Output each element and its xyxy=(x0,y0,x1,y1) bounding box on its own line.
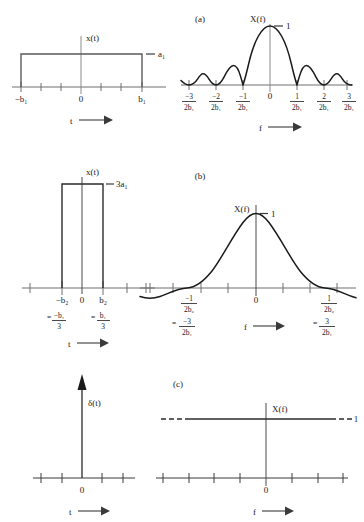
svg-text:3: 3 xyxy=(325,317,329,326)
row-c-time-plot: δ(t) 0 t xyxy=(33,374,135,517)
svg-text:2b₁: 2b₁ xyxy=(211,103,222,112)
row-b-tag: (b) xyxy=(195,171,206,181)
time-axis-label-c: t xyxy=(69,507,72,517)
svg-text:3: 3 xyxy=(347,92,351,101)
sinc-curve-b xyxy=(140,214,356,299)
amplitude-label-b: 3a₁ xyxy=(116,179,128,189)
svg-text:−3: −3 xyxy=(183,317,191,326)
svg-text:3: 3 xyxy=(101,322,105,331)
time-axis-label-b: t xyxy=(68,339,71,349)
row-a-time-plot: x(t) a₁ −b₁ 0 b₁ t xyxy=(12,33,166,126)
svg-text:=: = xyxy=(172,319,176,328)
time-tick-label-a-pos: b₁ xyxy=(138,94,146,104)
time-tick-label-b-pos: b₂ xyxy=(99,295,107,305)
time-axis-arrow-c xyxy=(78,507,110,516)
row-a-tag: (a) xyxy=(195,14,205,24)
freq-axis-label-c: f xyxy=(253,507,256,517)
freq-axis-arrow-c xyxy=(262,507,294,516)
svg-text:=: = xyxy=(47,313,51,322)
svg-text:2b₁: 2b₁ xyxy=(319,103,330,112)
sinc-curve-a xyxy=(181,26,352,85)
time-signal-label-c: δ(t) xyxy=(88,398,101,408)
time-signal-label-a: x(t) xyxy=(86,33,99,43)
freq-tick-fraction-b-right: 1 2b₂ xyxy=(321,294,337,314)
freq-tick-fraction-a-3: −1 2b₁ xyxy=(236,92,250,112)
freq-tick-label-a-zero: 0 xyxy=(268,91,273,101)
row-c-tag: (c) xyxy=(173,379,183,389)
freq-tick-fraction-b-left: −1 2b₂ xyxy=(181,294,197,314)
svg-text:−1: −1 xyxy=(185,294,193,303)
row-c: (c) δ(t) 0 t xyxy=(33,374,358,517)
freq-axis-label-b: f xyxy=(244,322,247,332)
svg-text:2b₁: 2b₁ xyxy=(322,328,333,337)
freq-tick-label-b-zero: 0 xyxy=(254,295,259,305)
freq-tick-fraction-a-1: −3 2b₁ xyxy=(182,92,196,112)
figure-fourier-transform-pairs: (a) x(t) a₁ −b₁ 0 b₁ t xyxy=(0,0,364,522)
svg-text:=: = xyxy=(91,313,95,322)
row-b-freq-plot: X(f) 1 0 −1 2b₂ 1 2b₂ = −3 2b₁ = 3 xyxy=(140,204,356,337)
peak-label-b: 1 xyxy=(271,209,276,219)
impulse-arrow-c xyxy=(78,374,87,478)
svg-text:1: 1 xyxy=(295,92,299,101)
freq-axis-arrow-a xyxy=(268,123,302,132)
svg-text:1: 1 xyxy=(327,294,331,303)
row-a-freq-plot: X(f) 1 0 −3 2b₁ −2 2b₁ −1 2b₁ 1 xyxy=(181,14,356,133)
svg-text:−2: −2 xyxy=(212,92,220,101)
svg-text:b₁: b₁ xyxy=(100,311,107,320)
freq-tick-label-c-zero: 0 xyxy=(264,485,269,495)
time-signal-label-b: x(t) xyxy=(86,167,99,177)
time-axis-arrow-b xyxy=(77,339,109,348)
time-tick-label-a-neg: −b₁ xyxy=(15,94,28,104)
level-label-c: 1 xyxy=(354,414,359,424)
freq-tick-fraction-a-2: −2 2b₁ xyxy=(209,92,223,112)
row-c-freq-plot: X(f) 1 0 f xyxy=(156,403,358,517)
time-axis-label-a: t xyxy=(70,116,73,126)
peak-label-a: 1 xyxy=(286,21,291,31)
svg-text:2b₁: 2b₁ xyxy=(292,103,303,112)
svg-text:2b₁: 2b₁ xyxy=(344,103,355,112)
freq-axis-label-a: f xyxy=(259,123,262,133)
svg-text:2b₁: 2b₁ xyxy=(238,103,249,112)
freq-equiv-b-left: = −3 2b₁ xyxy=(172,317,195,337)
time-axis-arrow-a xyxy=(79,116,113,125)
time-tick-label-a-zero: 0 xyxy=(79,94,84,104)
row-a: (a) x(t) a₁ −b₁ 0 b₁ t xyxy=(12,14,356,133)
freq-signal-label-c: X(f) xyxy=(272,404,288,414)
freq-equiv-b-right: = 3 2b₁ xyxy=(313,317,335,337)
svg-text:2: 2 xyxy=(322,92,326,101)
freq-tick-fraction-a-5: 2 2b₁ xyxy=(317,92,331,112)
svg-text:2b₁: 2b₁ xyxy=(184,103,195,112)
row-b: (b) x(t) 3a₁ −b₂ 0 b₂ = −b₁ xyxy=(22,167,356,349)
freq-axis-arrow-b xyxy=(253,322,285,331)
svg-text:−3: −3 xyxy=(185,92,193,101)
time-equiv-b-left: = −b₁ 3 xyxy=(47,311,66,331)
freq-tick-fraction-a-4: 1 2b₁ xyxy=(290,92,304,112)
svg-text:2b₁: 2b₁ xyxy=(182,328,193,337)
freq-tick-fraction-a-6: 3 2b₁ xyxy=(342,92,356,112)
time-equiv-b-right: = b₁ 3 xyxy=(91,311,110,331)
svg-text:2b₂: 2b₂ xyxy=(324,305,335,314)
svg-text:−b₁: −b₁ xyxy=(54,311,65,320)
svg-text:2b₂: 2b₂ xyxy=(184,305,195,314)
svg-text:=: = xyxy=(313,319,317,328)
amplitude-label-a: a₁ xyxy=(158,49,165,59)
time-tick-label-b-zero: 0 xyxy=(80,295,85,305)
svg-text:3: 3 xyxy=(57,322,61,331)
row-b-time-plot: x(t) 3a₁ −b₂ 0 b₂ = −b₁ 3 = b₁ 3 t xyxy=(22,167,155,349)
time-tick-label-b-neg: −b₂ xyxy=(56,295,69,305)
freq-signal-label-b: X(f) xyxy=(234,204,250,214)
freq-signal-label-a: X(f) xyxy=(250,14,266,24)
time-tick-label-c-zero: 0 xyxy=(80,485,85,495)
svg-text:−1: −1 xyxy=(239,92,247,101)
